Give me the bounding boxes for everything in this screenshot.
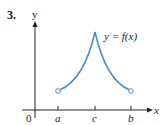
y-axis-label: y (32, 8, 38, 20)
x-axis-label: x (153, 104, 159, 116)
graph-figure: 3. y x 0 a c b y = f(x) (0, 0, 161, 125)
tick-label-b: b (128, 112, 134, 124)
open-endpoint-b (129, 89, 134, 94)
origin-label: 0 (26, 112, 32, 124)
open-endpoint-a (56, 89, 61, 94)
tick-label-c: c (92, 112, 97, 124)
curve-label: y = f(x) (103, 30, 137, 43)
curve-left-branch (60, 32, 96, 90)
tick-label-a: a (55, 112, 61, 124)
x-axis-arrow-icon (147, 108, 153, 113)
y-axis-arrow-icon (33, 21, 38, 27)
chart-canvas: y x 0 a c b y = f(x) (0, 0, 161, 125)
